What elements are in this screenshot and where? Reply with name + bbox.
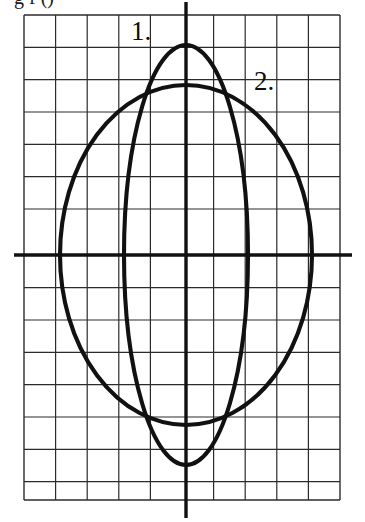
- graph-canvas: [0, 0, 365, 522]
- ellipse-graph-figure: g f (): [0, 0, 365, 522]
- curve-label-2: 2.: [254, 68, 274, 95]
- curve-label-1: 1.: [131, 18, 151, 45]
- grid-lines: [24, 15, 340, 500]
